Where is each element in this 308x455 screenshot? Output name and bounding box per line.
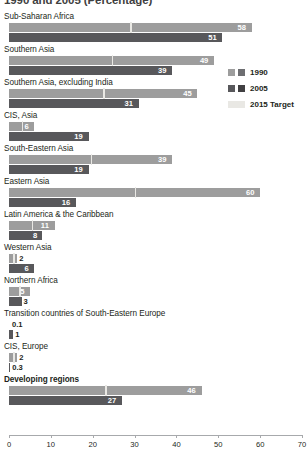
bar-value-label: 6 <box>25 264 29 273</box>
legend-item-1990: 1990 <box>228 66 308 79</box>
bar-value-label: 6 <box>25 122 29 131</box>
bar-value-label: 58 <box>238 23 246 32</box>
x-axis-tick-label: 50 <box>214 440 222 449</box>
target-marker-2015 <box>91 154 92 165</box>
chart-group: Northern Africa53 <box>0 276 308 306</box>
bar-2005 <box>9 231 42 240</box>
x-axis-tick <box>176 435 177 438</box>
bar-row: 1 <box>0 330 308 339</box>
x-axis-tick <box>93 435 94 438</box>
category-label: Developing regions <box>0 375 308 385</box>
bar-value-label: 49 <box>200 56 208 65</box>
chart-group: Transition countries of South-Eastern Eu… <box>0 309 308 339</box>
chart-group: Developing regions4627 <box>0 375 308 405</box>
target-marker-2015 <box>22 121 23 132</box>
x-axis-tick <box>260 435 261 438</box>
target-marker-2015 <box>105 385 106 396</box>
category-label: CIS, Europe <box>0 342 308 352</box>
category-label: Southern Asia <box>0 45 308 55</box>
legend-item-2015-target: 2015 Target <box>228 98 308 111</box>
legend-swatch-dark-icon <box>238 69 245 76</box>
bar-value-label: 2 <box>19 353 23 362</box>
bar-row: 19 <box>0 165 308 174</box>
legend-label-1990: 1990 <box>250 68 268 77</box>
x-axis-tick <box>51 435 52 438</box>
bar-value-label: 39 <box>158 155 166 164</box>
x-axis: 010203040506070 <box>0 435 308 455</box>
bar-2005 <box>9 66 172 75</box>
chart-title: 1990 and 2005 (Percentage) <box>4 0 152 6</box>
category-label: Transition countries of South-Eastern Eu… <box>0 309 308 319</box>
bar-row: 2 <box>0 254 308 263</box>
category-label: Eastern Asia <box>0 177 308 187</box>
chart-group: South-Eastern Asia3919 <box>0 144 308 174</box>
category-label: South-Eastern Asia <box>0 144 308 154</box>
bar-value-label: 31 <box>125 99 133 108</box>
bar-2005 <box>9 396 122 405</box>
bar-value-label: 5 <box>20 287 24 296</box>
bar-value-label: 2 <box>19 254 23 263</box>
chart-group: Eastern Asia6016 <box>0 177 308 207</box>
bar-row: 16 <box>0 198 308 207</box>
target-marker-2015 <box>130 22 131 33</box>
bar-value-label: 45 <box>183 89 191 98</box>
bar-row: 46 <box>0 386 308 395</box>
bar-2005 <box>9 330 13 339</box>
bar-value-label: 16 <box>62 198 70 207</box>
target-marker-2015 <box>32 220 33 231</box>
x-axis-tick <box>218 435 219 438</box>
legend-swatch-2015-target <box>228 101 250 108</box>
bar-value-label: 51 <box>208 33 216 42</box>
bar-2005 <box>9 264 34 273</box>
x-axis-tick <box>135 435 136 438</box>
category-label: Sub-Saharan Africa <box>0 12 308 22</box>
target-marker-2015 <box>112 55 113 66</box>
bar-value-label: 19 <box>74 165 82 174</box>
bar-value-label: 46 <box>187 386 195 395</box>
chart-group: CIS, Asia619 <box>0 111 308 141</box>
bar-row: 8 <box>0 231 308 240</box>
bar-2005 <box>9 33 222 42</box>
bar-row: 27 <box>0 396 308 405</box>
target-marker-2015 <box>13 352 14 363</box>
category-label: Western Asia <box>0 243 308 253</box>
x-axis-tick <box>302 435 303 438</box>
chart-container: 1990 and 2005 (Percentage) Sub-Saharan A… <box>0 0 308 455</box>
bar-value-label: 11 <box>41 221 49 230</box>
target-marker-2015 <box>13 253 14 264</box>
chart-legend: 1990 2005 2015 Target <box>228 66 308 114</box>
legend-swatch-dark-icon <box>238 85 245 92</box>
bar-value-label: 27 <box>108 396 116 405</box>
bar-value-label: 0.1 <box>12 320 23 329</box>
bar-row: 5 <box>0 287 308 296</box>
legend-swatch-light-icon <box>228 85 235 92</box>
legend-label-2005: 2005 <box>250 84 268 93</box>
bar-row: 0.1 <box>0 320 308 329</box>
legend-swatch-2005 <box>228 85 250 92</box>
bar-value-label: 1 <box>15 330 19 339</box>
x-axis-tick-label: 30 <box>130 440 138 449</box>
target-marker-2015 <box>103 88 104 99</box>
bar-row: 3 <box>0 297 308 306</box>
chart-group: CIS, Europe20.3 <box>0 342 308 372</box>
bar-2005 <box>9 297 22 306</box>
bar-value-label: 8 <box>33 231 37 240</box>
bar-row: 0.3 <box>0 363 308 372</box>
bar-value-label: 3 <box>24 297 28 306</box>
x-axis-tick-label: 10 <box>47 440 55 449</box>
bar-row: 49 <box>0 56 308 65</box>
x-axis-tick-label: 60 <box>256 440 264 449</box>
bar-2005 <box>9 99 139 108</box>
target-marker-2015 <box>135 187 136 198</box>
bar-2005 <box>9 363 10 372</box>
chart-group: Sub-Saharan Africa5851 <box>0 12 308 42</box>
x-axis-tick-label: 40 <box>172 440 180 449</box>
x-axis-tick-label: 20 <box>88 440 96 449</box>
category-label: Northern Africa <box>0 276 308 286</box>
legend-swatch-light-icon <box>228 69 235 76</box>
bar-row: 51 <box>0 33 308 42</box>
legend-label-2015-target: 2015 Target <box>250 100 294 109</box>
x-axis-line <box>9 435 302 436</box>
bar-value-label: 60 <box>246 188 254 197</box>
bar-value-label: 0.3 <box>12 363 23 372</box>
